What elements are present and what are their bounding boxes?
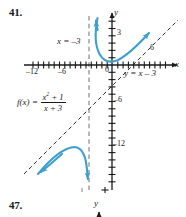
exercise-number-47: 47. <box>9 199 22 211</box>
curve-left-branch <box>38 147 88 179</box>
y-tick-label-neg6: –6 <box>114 96 122 104</box>
function-label-denominator: x + 3 <box>42 104 64 113</box>
y-axis-label: y <box>114 8 118 17</box>
function-label-numerator: x2 + 1 <box>41 93 66 102</box>
vertical-asymptote-label: x = –3 <box>57 37 81 46</box>
x-tick-label-neg6: –6 <box>58 68 66 76</box>
x-tick-label-6: 6 <box>150 44 154 52</box>
function-label-fraction: x2 + 1 x + 3 <box>41 93 66 113</box>
x-tick-label-neg12: –12 <box>26 68 38 76</box>
y-tick-label-neg12: –12 <box>113 140 125 148</box>
function-label: f(x) = x2 + 1 x + 3 <box>17 93 66 113</box>
page-root: 41. <box>0 0 186 217</box>
function-label-equals: = <box>32 98 39 107</box>
origin-label: 0 <box>105 66 109 74</box>
curve-left-branch-tail-arrow <box>41 154 62 172</box>
figure-47-y-axis-label: y <box>94 198 98 208</box>
function-label-lhs: f(x) <box>17 98 30 107</box>
graph-figure-41: x y x = –3 y = x – 3 –12 –6 6 3 –6 –12 0… <box>0 0 186 195</box>
y-tick-label-3: 3 <box>117 29 121 37</box>
slant-asymptote-label: y = x – 3 <box>124 69 156 78</box>
curve-right-branch <box>96 18 149 62</box>
graph-figure-47-partial: 47. y <box>0 186 186 217</box>
graph-47-svg <box>0 186 186 217</box>
x-axis-label: x <box>175 60 179 69</box>
numerator-rest: + 1 <box>49 92 63 102</box>
